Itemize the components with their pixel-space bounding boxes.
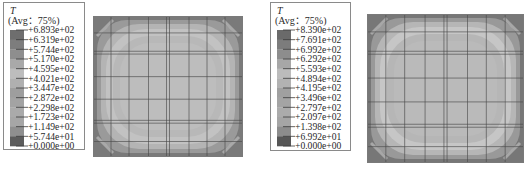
- legend-band: [277, 107, 291, 117]
- contour-plot-svg: [367, 14, 524, 163]
- legend-band: [277, 98, 291, 108]
- legend-2: T (Avg：75%) +8.390e+02+7.691e+02+6.992e+…: [270, 2, 351, 151]
- legend-band: [277, 127, 291, 137]
- legend-band: [277, 30, 291, 40]
- legend-band: [277, 78, 291, 88]
- legend-colorbar: +6.893e+02+6.319e+02+5.744e+02+5.170e+02…: [4, 3, 86, 151]
- contour-plot-svg: [93, 16, 243, 157]
- legend-band: [10, 30, 24, 40]
- legend-band: [277, 88, 291, 98]
- legend-band: [277, 40, 291, 50]
- legend-band: [10, 69, 24, 79]
- legend-band: [10, 88, 24, 98]
- legend-band: [10, 127, 24, 137]
- contour-plot-1: [93, 16, 243, 157]
- legend-band: [277, 69, 291, 79]
- legend-band: [10, 59, 24, 69]
- legend-band: [10, 78, 24, 88]
- legend-band: [10, 136, 24, 146]
- legend-band: [10, 49, 24, 59]
- legend-band: [10, 40, 24, 50]
- contour-band: [394, 41, 497, 136]
- legend-band: [277, 136, 291, 146]
- legend-colorbar: +8.390e+02+7.691e+02+6.992e+02+6.292e+02…: [271, 3, 352, 152]
- legend-band: [277, 117, 291, 127]
- contour-plot-2: [367, 14, 524, 163]
- legend-band: [10, 107, 24, 117]
- legend-tick-label: +0.000e+00: [28, 140, 74, 151]
- legend-tick-label: +0.000e+00: [295, 140, 341, 151]
- legend-band: [10, 98, 24, 108]
- legend-band: [277, 59, 291, 69]
- legend-band: [10, 117, 24, 127]
- contour-band: [120, 43, 216, 130]
- legend-band: [277, 49, 291, 59]
- legend-1: T (Avg：75%) +6.893e+02+6.319e+02+5.744e+…: [3, 2, 85, 150]
